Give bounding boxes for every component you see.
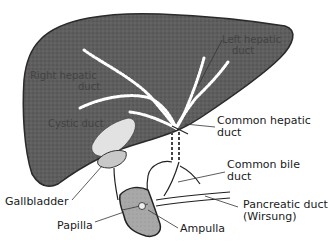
label-cystic-duct: Cystic duct bbox=[48, 118, 104, 129]
ampulla-shape bbox=[139, 203, 146, 210]
label-gallbladder: Gallbladder bbox=[5, 196, 68, 208]
label-ampulla: Ampulla bbox=[180, 223, 225, 235]
label-pancreatic-duct: Pancreatic duct (Wirsung) bbox=[243, 199, 328, 223]
label-pancreatic-line2: (Wirsung) bbox=[243, 211, 328, 223]
label-common-hepatic-duct: Common hepatic duct bbox=[217, 115, 311, 139]
label-papilla: Papilla bbox=[57, 220, 93, 232]
label-right-hepatic-duct: Right hepatic duct bbox=[30, 70, 100, 92]
leader-pancreatic bbox=[205, 196, 238, 207]
label-left-hepatic-line2: duct bbox=[222, 45, 281, 56]
liver-biliary-diagram: Left hepatic duct Right hepatic duct Cys… bbox=[0, 0, 334, 250]
leader-papilla bbox=[95, 212, 124, 222]
common-bile-duct-right bbox=[164, 162, 179, 196]
label-common-hepatic-line2: duct bbox=[217, 127, 311, 139]
gallbladder-neck-line bbox=[114, 168, 118, 200]
label-common-bile-line2: duct bbox=[227, 171, 300, 183]
duodenum-shape bbox=[120, 187, 161, 236]
label-left-hepatic-line1: Left hepatic bbox=[222, 34, 281, 45]
leader-common-hepatic bbox=[185, 124, 215, 127]
common-bile-duct-left bbox=[147, 162, 172, 200]
leader-common-bile bbox=[178, 172, 225, 182]
label-right-hepatic-line1: Right hepatic bbox=[30, 70, 100, 81]
label-right-hepatic-line2: duct bbox=[30, 81, 100, 92]
pancreatic-duct-lower bbox=[156, 198, 230, 206]
label-common-bile-duct: Common bile duct bbox=[227, 159, 300, 183]
label-left-hepatic-duct: Left hepatic duct bbox=[222, 34, 281, 56]
